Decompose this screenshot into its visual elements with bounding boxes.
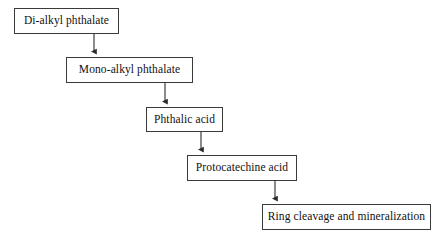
- node-label: Phthalic acid: [148, 114, 221, 126]
- node-di-alkyl-phthalate: Di-alkyl phthalate: [14, 8, 119, 34]
- node-protocatechine-acid: Protocatechine acid: [187, 155, 297, 181]
- node-ring-cleavage-and-mineralization: Ring cleavage and mineralization: [262, 204, 431, 230]
- node-label: Mono-alkyl phthalate: [73, 64, 186, 76]
- node-mono-alkyl-phthalate: Mono-alkyl phthalate: [66, 57, 193, 83]
- node-label: Ring cleavage and mineralization: [262, 211, 431, 223]
- node-label: Protocatechine acid: [190, 162, 294, 174]
- flowchart-diagram: Di-alkyl phthalate Mono-alkyl phthalate …: [0, 0, 445, 238]
- node-label: Di-alkyl phthalate: [18, 15, 115, 27]
- node-phthalic-acid: Phthalic acid: [146, 107, 223, 132]
